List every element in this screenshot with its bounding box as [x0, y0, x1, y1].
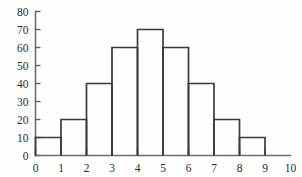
- histogram-bars: [36, 30, 266, 156]
- x-tick-label-7: 7: [211, 162, 217, 174]
- y-tick-label-70: 70: [17, 24, 29, 36]
- x-tick-label-6: 6: [186, 162, 192, 174]
- y-tick-label-10: 10: [17, 132, 29, 144]
- histogram-bar: [214, 120, 240, 156]
- histogram-bar: [189, 84, 215, 156]
- y-tick-label-60: 60: [17, 42, 29, 54]
- histogram-plot: 01020304050607080 012345678910: [0, 0, 302, 177]
- y-tick-label-40: 40: [17, 78, 29, 90]
- histogram-bar: [138, 30, 164, 156]
- histogram-bar: [36, 138, 62, 156]
- x-tick-label-2: 2: [84, 162, 90, 174]
- y-tick-label-80: 80: [17, 6, 29, 18]
- histogram-bar: [163, 48, 189, 156]
- x-tick-label-8: 8: [237, 162, 243, 174]
- y-tick-label-0: 0: [23, 150, 29, 162]
- y-tick-label-50: 50: [17, 60, 29, 72]
- y-axis-tick-labels: 01020304050607080: [17, 6, 29, 162]
- x-axis-ticks: [36, 149, 266, 156]
- histogram-bar: [112, 48, 138, 156]
- y-tick-label-20: 20: [17, 114, 29, 126]
- x-axis-tick-labels: 012345678910: [33, 162, 297, 174]
- x-tick-label-3: 3: [109, 162, 115, 174]
- histogram-bar: [87, 84, 113, 156]
- x-tick-label-9: 9: [262, 162, 268, 174]
- histogram-bar: [61, 120, 87, 156]
- histogram-bar: [240, 138, 266, 156]
- x-tick-label-0: 0: [33, 162, 39, 174]
- histogram-figure: 01020304050607080 012345678910: [0, 0, 302, 177]
- x-tick-label-10: 10: [285, 162, 297, 174]
- x-tick-label-1: 1: [58, 162, 64, 174]
- x-tick-label-5: 5: [160, 162, 166, 174]
- x-tick-label-4: 4: [135, 162, 141, 174]
- y-tick-label-30: 30: [17, 96, 29, 108]
